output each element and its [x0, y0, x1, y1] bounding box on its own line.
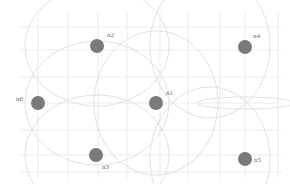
node-dot[interactable]: [89, 148, 103, 162]
network-diagram: n0n1n2n3n4n5: [0, 0, 290, 184]
range-circle: [25, 95, 169, 184]
range-circle: [150, 0, 270, 118]
node-label: n4: [253, 32, 261, 40]
node-n5[interactable]: n5: [238, 152, 262, 166]
node-label: n1: [166, 89, 174, 97]
node-dot[interactable]: [149, 96, 163, 110]
node-dot[interactable]: [238, 152, 252, 166]
node-n4[interactable]: n4: [238, 32, 261, 54]
node-dot[interactable]: [238, 40, 252, 54]
node-n3[interactable]: n3: [89, 148, 110, 171]
node-dot[interactable]: [90, 39, 104, 53]
node-label: n0: [16, 95, 24, 103]
node-n0[interactable]: n0: [16, 95, 45, 110]
node-label: n5: [254, 156, 262, 164]
range-circle: [150, 87, 270, 184]
node-label: n3: [102, 163, 110, 171]
node-dot[interactable]: [31, 96, 45, 110]
node-label: n2: [107, 31, 115, 39]
